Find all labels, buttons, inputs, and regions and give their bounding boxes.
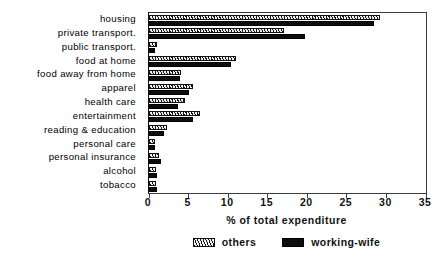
bar-group — [149, 167, 426, 180]
bar-working-wife — [149, 48, 155, 53]
category-label: personal insurance — [49, 152, 136, 162]
bar-others — [149, 98, 185, 103]
category-label: food away from home — [37, 69, 136, 79]
bar-working-wife — [149, 104, 178, 109]
bar-others — [149, 181, 156, 186]
bar-working-wife — [149, 90, 189, 95]
x-axis-tick-label: 10 — [221, 196, 234, 208]
x-axis-tick-label: 15 — [260, 196, 273, 208]
bar-working-wife — [149, 131, 164, 136]
bar-group — [149, 15, 426, 28]
category-label: food at home — [76, 56, 136, 66]
x-axis-tick-label: 20 — [300, 196, 313, 208]
bar-working-wife — [149, 21, 374, 26]
category-label: private transport. — [58, 28, 136, 38]
bar-others — [149, 28, 284, 33]
category-label: housing — [100, 14, 136, 24]
category-label: public transport. — [62, 42, 136, 52]
bar-working-wife — [149, 76, 180, 81]
bar-group — [149, 42, 426, 55]
legend-label-others: others — [222, 236, 257, 248]
bar-group — [149, 84, 426, 97]
legend-entry-working-wife: working-wife — [282, 236, 380, 248]
x-axis-tick-label: 35 — [419, 196, 432, 208]
x-axis-title: % of total expenditure — [148, 214, 425, 226]
hatched-swatch-icon — [193, 238, 215, 247]
bar-others — [149, 111, 200, 116]
bar-working-wife — [149, 145, 155, 150]
x-axis-tick-label: 25 — [340, 196, 353, 208]
bar-group — [149, 98, 426, 111]
bar-working-wife — [149, 173, 157, 178]
category-label: reading & education — [44, 125, 136, 135]
category-label: entertainment — [73, 111, 136, 121]
bar-working-wife — [149, 159, 161, 164]
chart-legend: others working-wife — [148, 236, 425, 248]
bar-group — [149, 125, 426, 138]
legend-label-working-wife: working-wife — [311, 236, 380, 248]
bar-others — [149, 42, 157, 47]
solid-swatch-icon — [282, 238, 304, 247]
x-axis-tick-label: 5 — [184, 196, 190, 208]
bar-group — [149, 153, 426, 166]
bar-working-wife — [149, 187, 157, 192]
category-label: personal care — [73, 139, 136, 149]
bar-others — [149, 84, 193, 89]
x-axis-tick-label: 30 — [379, 196, 392, 208]
x-axis-tick-label: 0 — [145, 196, 151, 208]
bar-group — [149, 56, 426, 69]
legend-entry-others: others — [193, 236, 257, 248]
bar-working-wife — [149, 62, 231, 67]
bar-group — [149, 28, 426, 41]
bar-working-wife — [149, 34, 305, 39]
bar-others — [149, 125, 167, 130]
bar-others — [149, 139, 155, 144]
bar-others — [149, 56, 236, 61]
x-axis-tick-labels: 05101520253035 — [0, 196, 441, 210]
horizontal-bar-chart: housingprivate transport.public transpor… — [0, 0, 441, 258]
category-axis-labels: housingprivate transport.public transpor… — [0, 13, 141, 191]
bar-group — [149, 70, 426, 83]
category-label: apparel — [102, 83, 136, 93]
bar-group — [149, 111, 426, 124]
category-label: alcohol — [103, 166, 136, 176]
plot-area — [148, 12, 427, 194]
bar-others — [149, 70, 181, 75]
bar-others — [149, 15, 380, 20]
bar-group — [149, 181, 426, 194]
bar-working-wife — [149, 117, 193, 122]
category-label: health care — [85, 97, 136, 107]
category-label: tobacco — [100, 180, 136, 190]
bar-others — [149, 153, 159, 158]
bar-group — [149, 139, 426, 152]
bar-others — [149, 167, 156, 172]
